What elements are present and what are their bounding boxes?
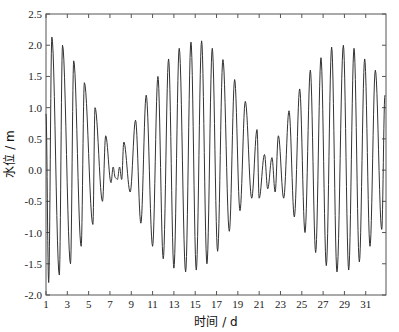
x-tick-label: 11 bbox=[147, 298, 158, 310]
y-axis-title: 水位 / m bbox=[2, 130, 17, 177]
y-tick-label: 2.5 bbox=[28, 8, 42, 20]
tide-level-chart: -2.0-1.5-1.0-0.50.00.51.01.52.02.5 13579… bbox=[0, 0, 399, 332]
x-tick-label: 25 bbox=[296, 298, 308, 310]
x-axis-title: 时间 / d bbox=[194, 315, 237, 329]
x-tick-label: 21 bbox=[254, 298, 265, 310]
y-tick-label: 2.0 bbox=[28, 39, 42, 51]
x-tick-label: 29 bbox=[339, 298, 351, 310]
y-tick-label: 1.5 bbox=[28, 70, 42, 82]
x-tick-label: 17 bbox=[211, 298, 223, 310]
y-tick-label: 0.5 bbox=[28, 133, 42, 145]
x-tick-label: 7 bbox=[107, 298, 113, 310]
y-tick-label: 0.0 bbox=[28, 164, 42, 176]
x-tick-label: 13 bbox=[168, 298, 180, 310]
y-tick-label: 1.0 bbox=[28, 102, 42, 114]
x-tick-label: 1 bbox=[43, 298, 49, 310]
plot-frame bbox=[46, 14, 386, 295]
x-tick-label: 31 bbox=[360, 298, 371, 310]
x-tick-label: 23 bbox=[275, 298, 287, 310]
y-tick-label: -1.5 bbox=[25, 258, 43, 270]
y-tick-label: -1.0 bbox=[25, 227, 43, 239]
x-tick-label: 5 bbox=[86, 298, 92, 310]
x-tick-label: 19 bbox=[232, 298, 244, 310]
x-tick-label: 3 bbox=[65, 298, 71, 310]
x-tick-label: 9 bbox=[129, 298, 135, 310]
x-tick-label: 15 bbox=[190, 298, 202, 310]
y-tick-label: -2.0 bbox=[25, 289, 43, 301]
y-tick-label: -0.5 bbox=[25, 195, 43, 207]
x-tick-label: 27 bbox=[318, 298, 330, 310]
